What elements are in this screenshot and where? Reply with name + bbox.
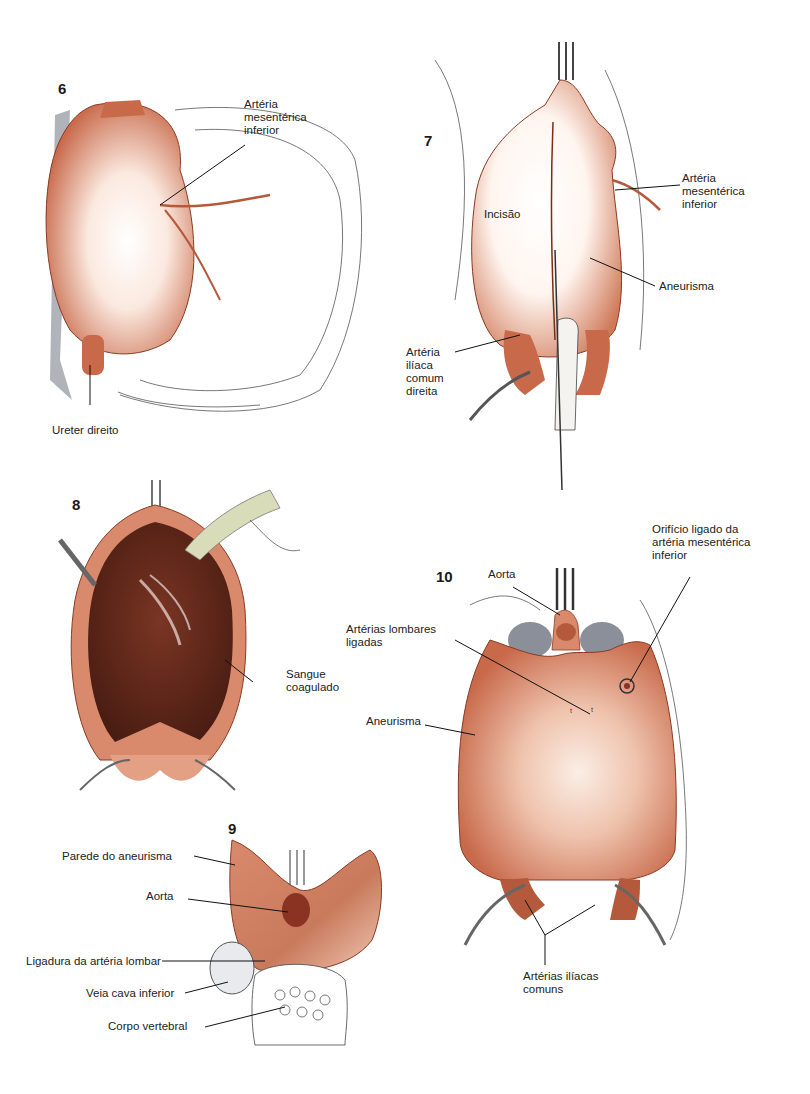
figure-10: ᵗ ᵗ 10 Aorta Orifício ligado da artéria … — [0, 0, 810, 1094]
leader-line — [630, 577, 690, 682]
leader-line — [513, 587, 560, 615]
leader-line — [545, 905, 595, 935]
svg-text:ᵗ: ᵗ — [570, 706, 572, 717]
label-lumbar: Artérias lombares ligadas — [346, 623, 436, 649]
label-aorta: Aorta — [488, 568, 516, 581]
label-orifice: Orifício ligado da artéria mesentérica i… — [652, 523, 750, 562]
label-aneurysm: Aneurisma — [366, 715, 421, 728]
label-iliacs: Artérias ilíacas comuns — [523, 970, 598, 996]
figure-number: 10 — [436, 568, 453, 585]
svg-text:ᵗ: ᵗ — [591, 705, 593, 716]
